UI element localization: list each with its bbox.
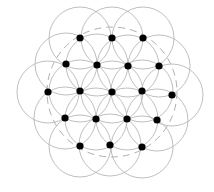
lattice-node bbox=[138, 87, 145, 94]
lattice-node bbox=[168, 91, 175, 98]
lattice-node bbox=[92, 115, 99, 122]
lattice-node bbox=[44, 88, 51, 95]
lattice-node bbox=[124, 62, 131, 69]
lattice-node bbox=[123, 115, 130, 122]
lattice-node bbox=[76, 142, 83, 149]
lattice-diagram bbox=[0, 0, 214, 192]
lattice-node bbox=[139, 34, 146, 41]
lattice-node bbox=[62, 60, 69, 67]
lattice-node bbox=[108, 34, 115, 41]
lattice-node bbox=[108, 88, 115, 95]
lattice-node bbox=[61, 114, 68, 121]
lattice-node bbox=[155, 62, 162, 69]
lattice-node bbox=[138, 143, 145, 150]
lattice-node bbox=[76, 34, 83, 41]
lattice-node bbox=[76, 87, 83, 94]
lattice-node bbox=[93, 61, 100, 68]
lattice-node bbox=[153, 116, 160, 123]
lattice-node bbox=[106, 141, 113, 148]
